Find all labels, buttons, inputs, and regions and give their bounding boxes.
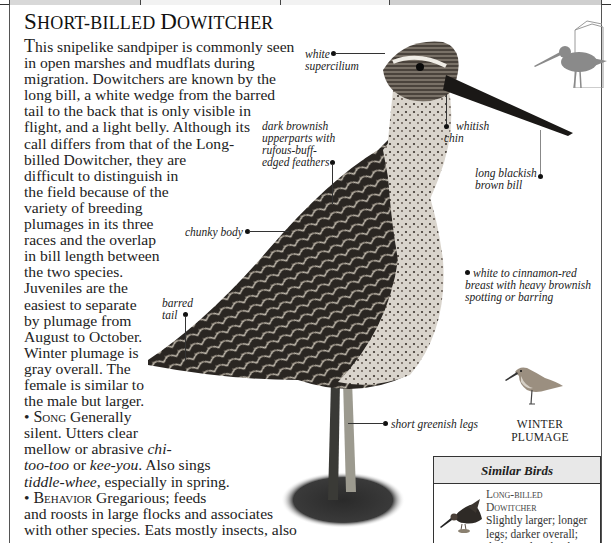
song-heading: Song bbox=[33, 408, 66, 425]
annotation-chin: whitish chin bbox=[444, 120, 489, 144]
leader-dot bbox=[538, 174, 543, 179]
description-line: difficult to distinguish in bbox=[24, 168, 324, 184]
behavior-heading: Behavior bbox=[33, 489, 92, 506]
description-line: the field because of the bbox=[24, 184, 324, 200]
description-line: Winter plumage is bbox=[24, 345, 324, 361]
title-part: hort-billed bbox=[37, 13, 160, 33]
leader-line bbox=[540, 130, 541, 174]
section-tab-2 bbox=[141, 0, 281, 5]
annotation-tail: barred tail bbox=[162, 297, 193, 321]
similar-birds-heading: Similar Birds bbox=[434, 457, 600, 484]
description-line: Juveniles are the bbox=[24, 280, 324, 296]
similar-bird-name: Long-billed bbox=[486, 488, 598, 501]
leader-line bbox=[185, 316, 186, 361]
bullet-icon: • bbox=[24, 489, 29, 506]
long-billed-dowitcher-thumbnail bbox=[440, 497, 484, 535]
description-line: races and the overlap bbox=[24, 232, 324, 248]
species-description: This snipelike sandpiper is commonly see… bbox=[24, 38, 324, 538]
leader-line bbox=[348, 423, 384, 424]
leader-line bbox=[446, 94, 447, 124]
annotation-legs: short greenish legs bbox=[391, 418, 478, 430]
field-guide-silhouette-icon bbox=[532, 18, 611, 88]
behavior-section: • Behavior Gregarious; feeds bbox=[24, 490, 324, 506]
page-frame-left bbox=[9, 5, 10, 543]
bullet-icon: • bbox=[24, 408, 29, 425]
leader-dot bbox=[465, 270, 470, 275]
leader-line bbox=[332, 164, 333, 204]
description-line: migration. Dowitchers are known by the bbox=[24, 71, 324, 87]
description-line: in bill length between bbox=[24, 248, 324, 264]
leader-dot bbox=[444, 124, 449, 129]
description-line: in open marshes and mudflats during bbox=[24, 55, 324, 71]
leader-line bbox=[335, 53, 385, 54]
description-line: This snipelike sandpiper is commonly see… bbox=[24, 38, 324, 55]
song-line: silent. Utters clear bbox=[24, 425, 324, 441]
similar-bird-desc: Slightly larger; longer bbox=[486, 514, 598, 527]
annotation-breast: white to cinnamon-red breast with heavy … bbox=[465, 267, 591, 303]
section-tab-4 bbox=[390, 0, 602, 5]
annotation-upperparts: dark brownish upperparts with rufous-buf… bbox=[262, 120, 335, 168]
description-line: the male but larger. bbox=[24, 393, 324, 409]
winter-plumage-label: Winter Plumage bbox=[505, 418, 575, 444]
section-tab-1 bbox=[9, 0, 141, 5]
section-tab-strip bbox=[0, 0, 611, 5]
song-line: tiddle-whee, especially in spring. bbox=[24, 474, 324, 490]
description-line: plumages in its three bbox=[24, 216, 324, 232]
leader-line bbox=[249, 231, 289, 232]
similar-bird-item: Long-billed Dowitcher Slightly larger; l… bbox=[486, 488, 598, 543]
song-line: too-too or kee-you. Also sings bbox=[24, 457, 324, 473]
similar-bird-desc: legs; darker overall; bbox=[486, 528, 598, 541]
description-line: variety of breeding bbox=[24, 200, 324, 216]
description-line: August to October. bbox=[24, 329, 324, 345]
section-tab-3 bbox=[281, 0, 390, 5]
behavior-line: and roosts in large flocks and associate… bbox=[24, 506, 324, 522]
description-line: tail to the back that is only visible in bbox=[24, 103, 324, 119]
annotation-bill: long blackish brown bill bbox=[475, 167, 537, 191]
description-line: female is similar to bbox=[24, 377, 324, 393]
behavior-line: with other species. Eats mostly insects,… bbox=[24, 522, 324, 538]
annotation-body: chunky body bbox=[185, 226, 243, 238]
similar-bird-name: Dowitcher bbox=[486, 501, 598, 514]
winter-plumage-bird-icon bbox=[505, 358, 565, 408]
description-line: gray overall. The bbox=[24, 361, 324, 377]
description-line: long bill, a white wedge from the barred bbox=[24, 87, 324, 103]
similar-birds-panel: Similar Birds Long-billed Dowitcher Slig… bbox=[433, 456, 601, 543]
song-section: • Song Generally bbox=[24, 409, 324, 425]
song-line: mellow or abrasive chi- bbox=[24, 441, 324, 457]
description-line: the two species. bbox=[24, 264, 324, 280]
